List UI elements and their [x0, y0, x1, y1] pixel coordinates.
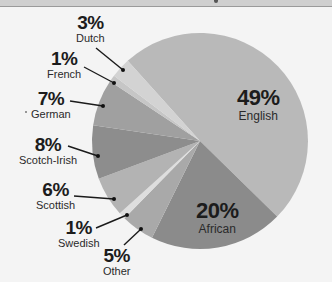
label-other-percent: 5%: [103, 246, 131, 265]
label-scottish: 6% Scottish: [36, 180, 75, 211]
label-dutch: 3% Dutch: [76, 13, 105, 44]
label-german-percent: 7%: [31, 89, 71, 108]
label-swedish-percent: 1%: [58, 218, 100, 237]
label-scottish-name: Scottish: [36, 200, 75, 211]
label-english-name: English: [237, 110, 280, 122]
leader-line-french: [84, 67, 114, 83]
label-scotch-irish: 8% Scotch-Irish: [19, 135, 77, 166]
leader-dot-dutch: [121, 68, 125, 72]
label-dutch-name: Dutch: [76, 33, 105, 44]
label-english-percent: 49%: [237, 87, 280, 109]
label-french: 1% French: [47, 49, 81, 80]
label-swedish: 1% Swedish: [58, 218, 100, 249]
stray-mark: [25, 111, 27, 113]
leader-dot-scotch-irish: [96, 154, 100, 158]
label-german-name: German: [31, 109, 71, 120]
leader-dot-french: [112, 81, 116, 85]
leader-line-swedish: [96, 215, 127, 228]
leader-dot-other: [139, 227, 143, 231]
label-african: 20% African: [196, 200, 239, 235]
leader-line-other: [124, 229, 141, 245]
leader-line-dutch: [96, 48, 123, 70]
label-swedish-name: Swedish: [58, 238, 100, 249]
label-french-name: French: [47, 69, 81, 80]
leader-dot-scottish: [112, 197, 116, 201]
leader-dot-swedish: [125, 213, 129, 217]
label-french-percent: 1%: [47, 49, 81, 68]
label-other-name: Other: [103, 266, 131, 277]
label-english: 49% English: [237, 87, 280, 122]
label-scotch-irish-name: Scotch-Irish: [19, 155, 77, 166]
label-other: 5% Other: [103, 246, 131, 277]
label-scotch-irish-percent: 8%: [19, 135, 77, 154]
label-dutch-percent: 3%: [76, 13, 105, 32]
leader-line-german: [70, 101, 103, 106]
label-african-percent: 20%: [196, 200, 239, 222]
leader-dot-german: [101, 104, 105, 108]
label-scottish-percent: 6%: [36, 180, 75, 199]
label-african-name: African: [196, 223, 239, 235]
label-german: 7% German: [31, 89, 71, 120]
